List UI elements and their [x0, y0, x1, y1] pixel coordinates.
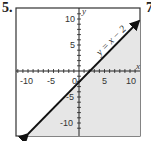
y-axis-label: y — [81, 6, 86, 16]
x-tick-label: 10 — [126, 76, 136, 86]
x-tick-label: 5 — [102, 76, 107, 86]
y-tick-label: 5 — [70, 40, 75, 50]
y-tick-label: 10 — [65, 14, 75, 24]
x-tick-label: -10 — [20, 76, 33, 86]
x-tick-label: -5 — [47, 76, 55, 86]
inequality-graph: -10 -5 0 5 10 10 5 -5 -10 y x y = x − 2 — [0, 0, 151, 141]
y-tick-label: -10 — [60, 118, 73, 128]
x-axis-label: x — [135, 61, 140, 71]
